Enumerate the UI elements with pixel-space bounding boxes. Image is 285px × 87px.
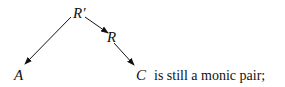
trailing-sentence: is still a monic pair; [154, 69, 265, 83]
node-r: R [107, 30, 116, 45]
node-r-prime: R′ [73, 6, 85, 21]
node-a: A [14, 68, 23, 83]
arrow-rprime-to-r [85, 17, 108, 33]
arrow-rprime-to-a [25, 17, 71, 64]
monic-pair-diagram: R′ R A C is still a monic pair; [0, 0, 285, 87]
arrow-r-to-c [114, 43, 134, 65]
node-c: C [136, 68, 146, 83]
